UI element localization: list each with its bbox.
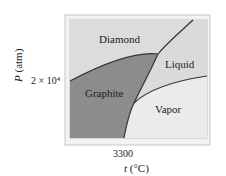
region-label-graphite: Graphite — [85, 88, 123, 99]
x-axis-label: t (°C) — [124, 163, 149, 174]
x-axis-unit: (°C) — [127, 162, 149, 174]
region-label-vapor: Vapor — [155, 104, 181, 115]
y-axis-unit: (atm) — [12, 49, 24, 76]
y-axis-variable: P — [12, 75, 24, 82]
region-label-liquid: Liquid — [165, 59, 194, 70]
x-tick-label: 3300 — [113, 149, 133, 159]
region-label-diamond: Diamond — [99, 34, 140, 45]
y-axis-label: P (atm) — [12, 49, 24, 82]
y-tick-label: 2 × 10⁴ — [31, 76, 60, 86]
